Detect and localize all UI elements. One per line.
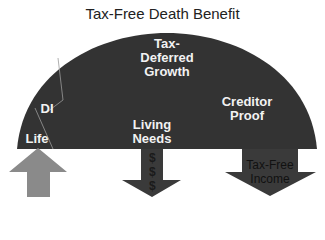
label-line: Tax- xyxy=(137,37,197,51)
label-line: Needs xyxy=(124,132,180,146)
label-line: Tax-Free xyxy=(240,158,300,172)
label-line: Deferred xyxy=(137,51,197,65)
arrow-label-tax-free-income: Tax-Free Income xyxy=(240,158,300,186)
life-up-arrow xyxy=(9,148,67,197)
segment-label-creditor-proof: Creditor Proof xyxy=(217,95,277,123)
segment-label-di: DI xyxy=(37,102,57,116)
dollar-sign-icon: $ xyxy=(149,180,156,192)
segment-label-tax-deferred-growth: Tax- Deferred Growth xyxy=(137,37,197,79)
label-line: Proof xyxy=(217,109,277,123)
dollar-sign-icon: $ xyxy=(149,166,156,178)
label-line: Income xyxy=(240,172,300,186)
dollar-sign-icon: $ xyxy=(149,152,156,164)
segment-label-living-needs: Living Needs xyxy=(124,118,180,146)
label-line: Growth xyxy=(137,65,197,79)
label-line: Living xyxy=(124,118,180,132)
label-line: Creditor xyxy=(217,95,277,109)
segment-label-life: Life xyxy=(22,132,52,146)
